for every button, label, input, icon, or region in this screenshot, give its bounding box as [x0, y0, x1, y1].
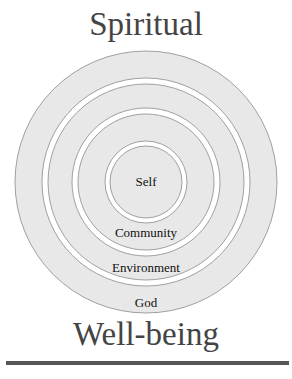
- label-environment: Environment: [112, 260, 180, 275]
- horizontal-divider: [6, 361, 289, 365]
- label-community: Community: [115, 225, 178, 240]
- diagram-title-bottom: Well-being: [0, 318, 292, 351]
- label-self: Self: [136, 174, 158, 189]
- label-god: God: [135, 295, 158, 310]
